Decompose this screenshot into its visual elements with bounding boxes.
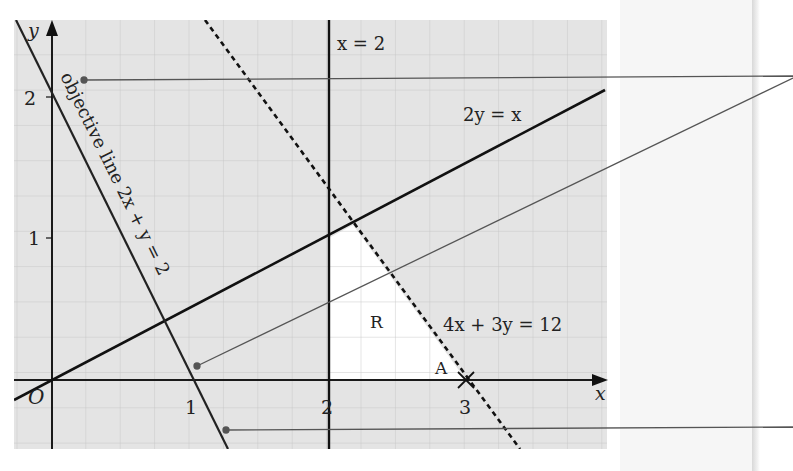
x-tick-label-1: 1	[185, 396, 197, 418]
origin-label: O	[28, 385, 44, 409]
diagram-stage: y x O 1 2 3 1 2 x = 2 2y = x 4x + 3y = 1…	[0, 0, 793, 471]
y-tick-label-1: 1	[28, 227, 40, 249]
x-axis-label: x	[595, 382, 606, 404]
x-tick-label-3: 3	[459, 396, 471, 418]
grid	[14, 20, 607, 449]
point-a-label: A	[434, 358, 448, 378]
y-axis-label: y	[27, 19, 39, 41]
label-2y-equals-x: 2y = x	[463, 104, 521, 125]
x-tick-label-2: 2	[321, 396, 333, 418]
y-tick-label-2: 2	[24, 87, 36, 109]
label-x-equals-2: x = 2	[337, 33, 385, 54]
linear-programming-graph: y x O 1 2 3 1 2 x = 2 2y = x 4x + 3y = 1…	[0, 0, 793, 471]
region-label: R	[370, 312, 384, 332]
label-4x-3y-12: 4x + 3y = 12	[443, 314, 562, 335]
